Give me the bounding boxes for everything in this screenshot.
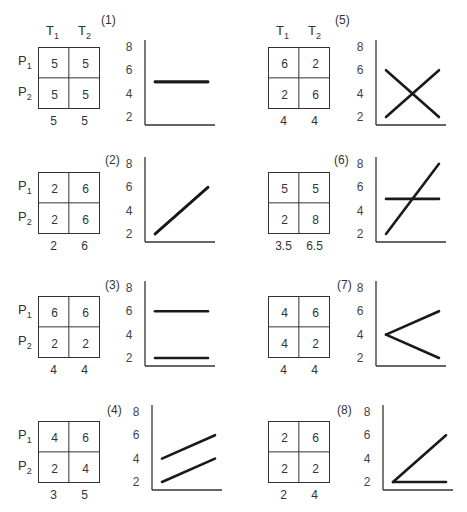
row-label-p1: P1 xyxy=(18,427,32,445)
row-label-p1: P1 xyxy=(18,178,32,196)
cell-value: 4 xyxy=(269,297,300,328)
column-label-t1: T1 xyxy=(276,23,289,41)
cell-value: 4 xyxy=(269,328,300,359)
row-label-p2: P2 xyxy=(18,84,32,102)
panel-number: (6) xyxy=(334,153,349,167)
y-tick-label: 4 xyxy=(133,452,140,466)
cell-grid: 2622 xyxy=(268,421,330,483)
panel-number: (5) xyxy=(335,13,350,27)
column-mean: 4 xyxy=(299,488,330,502)
y-tick-label: 4 xyxy=(357,204,364,218)
cell-value: 2 xyxy=(300,453,331,484)
cell-value: 8 xyxy=(300,204,331,235)
cell-value: 6 xyxy=(70,422,101,453)
cell-value: 6 xyxy=(70,173,101,204)
cell-grid: 4642 xyxy=(268,296,330,358)
series-line-p2 xyxy=(386,335,439,358)
cell-value: 2 xyxy=(70,328,101,359)
interaction-line-chart: 8642 xyxy=(358,405,453,495)
column-mean: 5 xyxy=(38,114,69,128)
column-mean: 2 xyxy=(268,488,299,502)
panel-number: (8) xyxy=(337,403,352,417)
cell-value: 4 xyxy=(39,422,70,453)
cell-grid: 5555 xyxy=(38,47,100,109)
cell-grid: 6226 xyxy=(268,47,330,109)
cell-grid: 5528 xyxy=(268,172,330,234)
interaction-line-chart: 8642 xyxy=(120,40,215,130)
y-tick-label: 2 xyxy=(364,475,371,489)
column-label-t2: T2 xyxy=(308,23,321,41)
row-label-p2: P2 xyxy=(18,333,32,351)
y-tick-label: 4 xyxy=(126,87,133,101)
y-tick-label: 6 xyxy=(126,63,133,77)
cell-value: 2 xyxy=(269,204,300,235)
y-tick-label: 2 xyxy=(357,227,364,241)
cell-value: 2 xyxy=(269,422,300,453)
series-line-p2 xyxy=(162,459,215,482)
panel-number: (7) xyxy=(337,278,352,292)
y-tick-label: 8 xyxy=(126,40,133,54)
y-tick-label: 6 xyxy=(357,63,364,77)
column-mean: 4 xyxy=(38,363,69,377)
interaction-line-chart: 8642 xyxy=(127,405,222,495)
row-label-p2: P2 xyxy=(18,458,32,476)
column-label-t2: T2 xyxy=(78,23,91,41)
cell-value: 5 xyxy=(269,173,300,204)
row-label-p1: P1 xyxy=(18,302,32,320)
y-tick-label: 8 xyxy=(133,405,140,419)
panel-number: (4) xyxy=(107,403,122,417)
interaction-line-chart: 8642 xyxy=(351,281,446,371)
panel-number: (3) xyxy=(105,278,120,292)
y-tick-label: 8 xyxy=(126,281,133,295)
row-label-p2: P2 xyxy=(18,209,32,227)
cell-value: 2 xyxy=(269,453,300,484)
y-tick-label: 2 xyxy=(126,110,133,124)
y-tick-label: 8 xyxy=(126,157,133,171)
y-tick-label: 8 xyxy=(357,157,364,171)
column-label-t1: T1 xyxy=(46,23,59,41)
y-tick-label: 4 xyxy=(364,452,371,466)
series-line-p1 xyxy=(386,311,439,334)
column-mean: 3.5 xyxy=(268,239,299,253)
y-tick-label: 6 xyxy=(133,428,140,442)
y-tick-label: 2 xyxy=(133,475,140,489)
interaction-line-chart: 8642 xyxy=(351,157,446,247)
cell-grid: 2626 xyxy=(38,172,100,234)
series-line-p1 xyxy=(393,435,446,482)
cell-value: 5 xyxy=(300,173,331,204)
interaction-line-chart: 8642 xyxy=(120,157,215,247)
cell-value: 2 xyxy=(300,328,331,359)
series-line-p1 xyxy=(162,435,215,458)
column-mean: 4 xyxy=(268,363,299,377)
column-mean: 6.5 xyxy=(299,239,330,253)
cell-value: 2 xyxy=(39,453,70,484)
column-mean: 3 xyxy=(38,488,69,502)
y-tick-label: 8 xyxy=(357,40,364,54)
cell-value: 6 xyxy=(300,422,331,453)
column-mean: 6 xyxy=(69,239,100,253)
column-mean: 5 xyxy=(69,488,100,502)
cell-value: 5 xyxy=(39,48,70,79)
cell-value: 6 xyxy=(300,297,331,328)
y-tick-label: 8 xyxy=(357,281,364,295)
column-mean: 4 xyxy=(268,114,299,128)
cell-value: 6 xyxy=(70,204,101,235)
y-tick-label: 2 xyxy=(126,227,133,241)
column-mean: 5 xyxy=(69,114,100,128)
cell-value: 2 xyxy=(39,173,70,204)
cell-value: 6 xyxy=(39,297,70,328)
y-tick-label: 6 xyxy=(357,180,364,194)
cell-value: 6 xyxy=(269,48,300,79)
cell-value: 2 xyxy=(269,79,300,110)
y-tick-label: 4 xyxy=(357,328,364,342)
y-tick-label: 6 xyxy=(357,304,364,318)
series-line-p2 xyxy=(155,187,208,234)
panel-number: (1) xyxy=(101,13,116,27)
column-mean: 4 xyxy=(299,363,330,377)
y-tick-label: 2 xyxy=(357,351,364,365)
column-mean: 4 xyxy=(299,114,330,128)
y-tick-label: 4 xyxy=(126,328,133,342)
cell-grid: 4624 xyxy=(38,421,100,483)
cell-value: 2 xyxy=(300,48,331,79)
interaction-line-chart: 8642 xyxy=(120,281,215,371)
